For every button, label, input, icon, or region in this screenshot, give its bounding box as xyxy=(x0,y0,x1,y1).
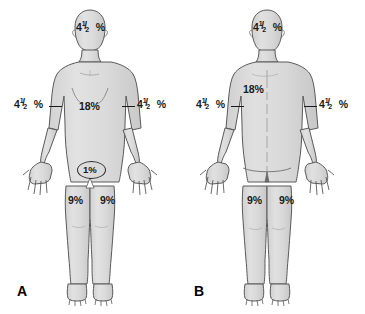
label-b-trunk: 18% xyxy=(243,84,264,95)
label-b-right-leg: 9% xyxy=(279,195,294,206)
label-a-left-leg: 9% xyxy=(68,195,83,206)
label-b-left-arm-percent: % xyxy=(216,99,225,110)
label-b-head-percent: % xyxy=(273,22,282,33)
label-b-right-arm-percent: % xyxy=(339,99,348,110)
label-a-head-denominator: 2 xyxy=(85,26,89,33)
body-diagram-artwork xyxy=(0,0,365,314)
leader-line-a-left-arm xyxy=(49,106,62,107)
label-a-left-arm-percent: % xyxy=(34,99,43,110)
label-a-trunk: 18% xyxy=(79,101,100,112)
figure-a-anterior xyxy=(23,10,157,306)
label-a-right-arm-denominator: 2 xyxy=(146,103,150,110)
label-b-left-arm-denominator: 2 xyxy=(205,103,209,110)
panel-letter-b: B xyxy=(194,283,204,299)
rule-of-nines-figure: 41/2% 41/2% 41/2% 18% 1% 9% 9% A 41/2% 4… xyxy=(0,0,365,314)
label-b-left-leg: 9% xyxy=(247,195,262,206)
label-a-left-arm-denominator: 2 xyxy=(23,103,27,110)
label-b-right-arm: 41/2% xyxy=(319,99,348,110)
label-a-left-arm: 41/2% xyxy=(14,99,43,110)
label-b-head-denominator: 2 xyxy=(262,26,266,33)
label-a-genitalia: 1% xyxy=(83,165,97,175)
leader-line-b-left-arm xyxy=(231,106,244,107)
panel-letter-a: A xyxy=(17,283,27,299)
leader-line-b-right-arm xyxy=(304,106,317,107)
label-b-head: 41/2% xyxy=(253,22,282,33)
label-a-head: 41/2% xyxy=(76,22,105,33)
figure-b-posterior xyxy=(200,10,334,306)
leader-line-a-right-arm xyxy=(122,106,135,107)
label-b-left-arm: 41/2% xyxy=(196,99,225,110)
label-a-right-arm: 41/2% xyxy=(137,99,166,110)
label-a-head-percent: % xyxy=(96,22,105,33)
label-a-right-leg: 9% xyxy=(100,195,115,206)
label-a-right-arm-percent: % xyxy=(157,99,166,110)
label-b-right-arm-denominator: 2 xyxy=(328,103,332,110)
